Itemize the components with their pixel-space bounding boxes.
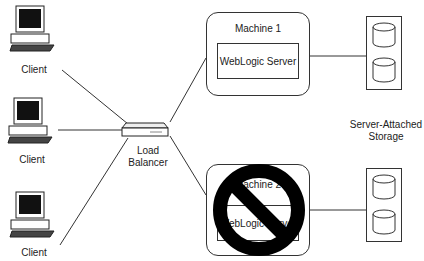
desktop-computer-icon — [8, 190, 58, 250]
desktop-computer-icon — [8, 4, 58, 64]
client-computer-1 — [8, 4, 58, 64]
client-label-2: Client — [12, 154, 52, 166]
prohibited-icon — [212, 162, 306, 258]
disk-cylinders-icon — [367, 17, 401, 89]
storage-unit-1 — [366, 16, 402, 90]
cluster-failover-diagram: Client Client Client Load Balancer Machi… — [0, 0, 424, 261]
machine-1-title: Machine 1 — [207, 23, 309, 34]
weblogic-server-1: WebLogic Server — [217, 43, 299, 79]
disk-cylinders-icon — [367, 169, 401, 241]
desktop-computer-icon — [6, 96, 56, 156]
client-computer-2 — [6, 96, 56, 156]
load-balancer-icon — [120, 120, 172, 140]
storage-unit-2 — [366, 168, 402, 242]
storage-label: Server-Attached Storage — [348, 119, 424, 143]
load-balancer-label: Load Balancer — [118, 145, 178, 169]
client-computer-3 — [8, 190, 58, 250]
client-label-3: Client — [14, 247, 54, 259]
machine-1: Machine 1 WebLogic Server — [206, 12, 310, 96]
client-label-1: Client — [14, 64, 54, 76]
